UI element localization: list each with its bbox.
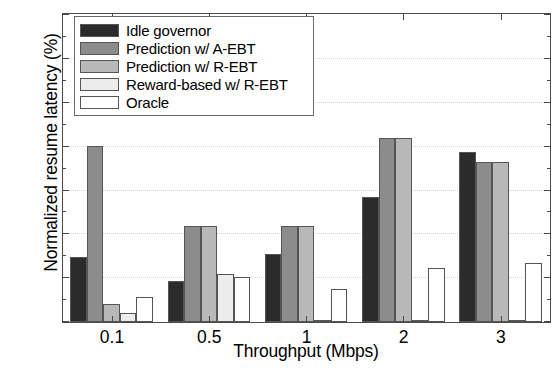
x-axis-tick — [209, 316, 210, 322]
x-tick-label: 0.1 — [82, 327, 142, 348]
bar — [525, 263, 542, 322]
bar-chart-figure: Normalized resume latency (%) Throughput… — [0, 0, 558, 371]
bar — [265, 254, 282, 322]
y-axis-minor-tick-right — [547, 211, 550, 212]
bar — [362, 197, 379, 322]
x-axis-tick-top — [501, 14, 502, 20]
bar — [168, 281, 185, 322]
y-axis-tick-right — [544, 14, 550, 15]
x-axis-tick — [403, 316, 404, 322]
bar — [184, 226, 201, 322]
legend-item: Idle governor — [80, 21, 308, 39]
chart-legend: Idle governorPrediction w/ A-EBTPredicti… — [74, 16, 314, 116]
y-axis-minor-tick-right — [547, 299, 550, 300]
y-axis-tick — [63, 14, 69, 15]
y-axis-minor-tick-right — [547, 36, 550, 37]
y-axis-tick — [63, 102, 69, 103]
y-axis-tick — [63, 58, 69, 59]
bar-group — [362, 14, 445, 322]
bar — [331, 289, 348, 322]
y-axis-tick-right — [544, 146, 550, 147]
bar — [234, 277, 251, 322]
bar — [492, 162, 509, 322]
y-axis-tick-right — [544, 233, 550, 234]
bar — [120, 313, 137, 322]
y-axis-tick-right — [544, 277, 550, 278]
y-axis-tick — [63, 146, 69, 147]
y-axis-minor-tick — [63, 255, 66, 256]
bar — [412, 320, 429, 322]
y-axis-tick — [63, 277, 69, 278]
legend-swatch — [80, 60, 119, 73]
bar — [428, 268, 445, 322]
bar — [476, 162, 493, 322]
bar — [217, 274, 234, 322]
bar — [87, 146, 104, 322]
y-axis-tick-right — [544, 58, 550, 59]
bar — [395, 138, 412, 322]
x-axis-tick — [306, 316, 307, 322]
y-axis-minor-tick — [63, 36, 66, 37]
legend-label: Prediction w/ A-EBT — [126, 40, 256, 57]
bar — [281, 226, 298, 322]
y-axis-tick — [63, 233, 69, 234]
x-axis-tick — [112, 316, 113, 322]
y-axis-minor-tick — [63, 80, 66, 81]
legend-label: Oracle — [126, 94, 169, 111]
y-axis-tick-right — [544, 102, 550, 103]
y-axis-tick — [63, 190, 69, 191]
y-axis-minor-tick — [63, 124, 66, 125]
legend-item: Prediction w/ A-EBT — [80, 39, 308, 57]
bar — [509, 320, 526, 322]
bar — [379, 138, 396, 322]
bar-group — [459, 14, 542, 322]
bar — [459, 152, 476, 322]
y-axis-minor-tick-right — [547, 168, 550, 169]
x-axis-tick-top — [403, 14, 404, 20]
x-tick-label: 2 — [374, 327, 434, 348]
y-axis-minor-tick-right — [547, 124, 550, 125]
x-tick-label: 0.5 — [179, 327, 239, 348]
y-axis-minor-tick — [63, 211, 66, 212]
y-axis-minor-tick — [63, 168, 66, 169]
x-tick-label: 3 — [471, 327, 531, 348]
y-axis-title: Normalized resume latency (%) — [41, 0, 62, 308]
bar — [298, 226, 315, 322]
x-axis-tick — [501, 316, 502, 322]
y-axis-tick-right — [544, 190, 550, 191]
x-tick-label: 1 — [277, 327, 337, 348]
legend-label: Idle governor — [126, 22, 211, 39]
legend-swatch — [80, 78, 119, 91]
legend-label: Prediction w/ R-EBT — [126, 58, 257, 75]
y-axis-tick-right — [544, 321, 550, 322]
legend-item: Reward-based w/ R-EBT — [80, 75, 308, 93]
bar — [201, 226, 218, 322]
y-axis-minor-tick-right — [547, 80, 550, 81]
y-axis-minor-tick — [63, 299, 66, 300]
bar — [314, 320, 331, 322]
bar — [136, 297, 153, 322]
y-axis-tick — [63, 321, 69, 322]
y-axis-minor-tick-right — [547, 255, 550, 256]
legend-swatch — [80, 96, 119, 109]
legend-item: Prediction w/ R-EBT — [80, 57, 308, 75]
bar — [70, 257, 87, 322]
legend-item: Oracle — [80, 93, 308, 111]
legend-label: Reward-based w/ R-EBT — [126, 76, 288, 93]
legend-swatch — [80, 42, 119, 55]
legend-swatch — [80, 24, 119, 37]
